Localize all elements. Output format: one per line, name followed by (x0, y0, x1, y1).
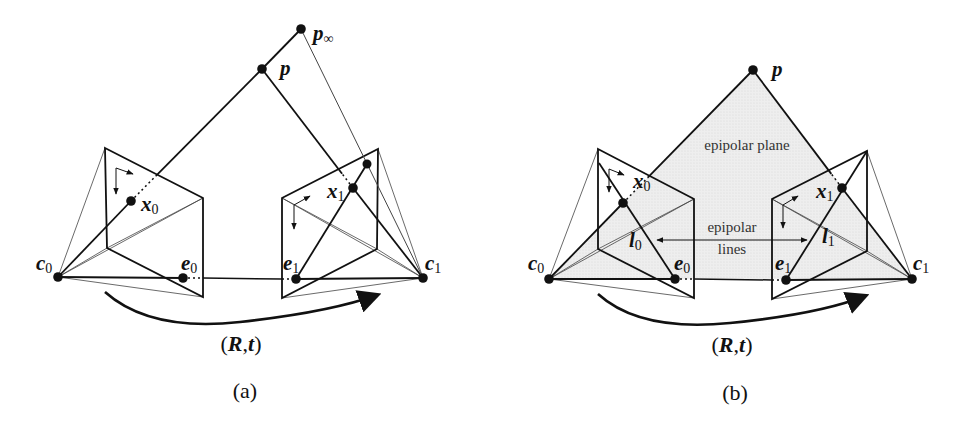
ray-c1-x1 (353, 188, 423, 278)
label-x0: x0 (140, 192, 159, 217)
baseline-segment (786, 279, 912, 280)
point-x-inf (363, 160, 372, 169)
panel-caption: (a) (233, 378, 257, 403)
label-c1: c1 (913, 251, 929, 276)
label-e0: e0 (181, 251, 197, 276)
baseline-segment (58, 277, 183, 278)
camera-axis-right-icon (294, 196, 310, 205)
motion-arc-arrow (105, 292, 377, 324)
label-c0: c0 (528, 251, 544, 276)
baseline-segment (203, 278, 282, 279)
baseline-segment (694, 279, 772, 280)
point-p-inf (296, 24, 306, 34)
panel-caption: (b) (722, 380, 748, 405)
text-epipolar-lines-2: lines (718, 241, 746, 257)
text-epipolar-plane: epipolar plane (704, 137, 790, 153)
text-epipolar-lines-1: epipolar (707, 219, 756, 235)
panel-a: p∞px0x1c0e0e1c1(R,t)(a) (36, 21, 441, 403)
frustum-edge-right (378, 149, 423, 278)
label-c1: c1 (425, 251, 441, 276)
epipolar-geometry-figure: p∞px0x1c0e0e1c1(R,t)(a) px0x1l0l1c0e0e1c… (0, 0, 956, 423)
point-c1 (907, 274, 917, 284)
panel-b: px0x1l0l1c0e0e1c1epipolar planeepipolarl… (528, 57, 929, 405)
point-p (257, 64, 267, 74)
label-p: p (770, 57, 783, 81)
point-e1 (781, 275, 791, 285)
point-c0 (53, 272, 63, 282)
ray-to-p (262, 69, 342, 174)
camera-axis-left-icon (116, 168, 133, 174)
point-x1 (348, 183, 358, 193)
camera-axis-left-icon (609, 169, 624, 175)
baseline-segment (296, 278, 423, 279)
motion-arc-arrow (598, 294, 865, 325)
point-x0 (126, 196, 136, 206)
motion-label: (R,t) (221, 331, 262, 356)
point-p (748, 65, 758, 75)
label-x1: x1 (326, 179, 345, 204)
ray-to-p (157, 69, 262, 175)
motion-label: (R,t) (712, 332, 753, 357)
ray-c0-x0 (58, 201, 131, 277)
point-x0 (618, 198, 628, 208)
label-e1: e1 (283, 251, 299, 276)
point-x1 (837, 183, 847, 193)
frustum-edge-left (58, 148, 105, 277)
label-p: p (278, 56, 291, 80)
label-c0: c0 (36, 251, 52, 276)
point-e0 (670, 274, 680, 284)
label-p_inf: p∞ (311, 21, 334, 46)
label-x0: x0 (632, 169, 651, 194)
point-c0 (544, 274, 554, 284)
